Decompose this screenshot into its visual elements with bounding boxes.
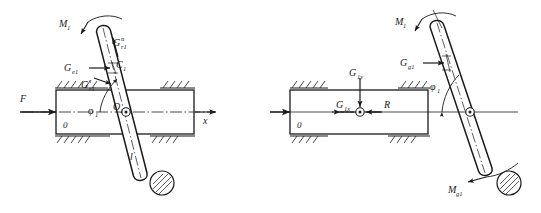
roller-circle (150, 171, 174, 195)
svg-text:C: C (116, 59, 123, 70)
svg-text:G: G (400, 57, 407, 68)
svg-text:e1: e1 (72, 68, 78, 75)
label-reaction: R (383, 99, 390, 110)
ground-hatch-bottom-left (290, 136, 328, 143)
svg-text:G: G (64, 62, 71, 73)
svg-text:τ: τ (89, 77, 92, 84)
svg-text:1: 1 (120, 107, 123, 114)
figure-root: F M 1 G n r1 G e1 G τ r1 C 1 O 1 φ (0, 0, 541, 213)
svg-text:G: G (349, 67, 356, 78)
ground-hatch-bottom-left (55, 136, 110, 143)
svg-text:r1: r1 (89, 85, 95, 92)
ground-hatch-top-right (160, 81, 195, 88)
rod-centerline (437, 23, 485, 173)
pivot-joint-rod (466, 108, 474, 116)
svg-text:G: G (113, 37, 120, 48)
svg-text:g1: g1 (408, 63, 415, 70)
svg-text:1: 1 (403, 22, 406, 29)
svg-text:φ: φ (88, 105, 94, 116)
left-diagram-svg: F M 1 G n r1 G e1 G τ r1 C 1 O 1 φ (0, 0, 270, 213)
svg-text:n: n (121, 35, 125, 42)
svg-text:G: G (81, 79, 88, 90)
pivot-joint-block (356, 108, 364, 116)
right-diagram: F M 1 G g1 G 1y G 1x R φ 1 M g1 0 (270, 0, 541, 213)
label-x-axis: x (202, 115, 208, 126)
svg-text:1: 1 (123, 65, 126, 72)
svg-text:1: 1 (95, 111, 98, 118)
svg-text:φ: φ (430, 81, 436, 92)
label-rod-length: l (130, 151, 133, 162)
svg-text:1: 1 (437, 87, 440, 94)
label-moment: M 1 (394, 16, 406, 29)
ground-hatch-bottom-right (150, 136, 195, 143)
label-angle: φ 1 (430, 81, 440, 94)
svg-text:G: G (336, 99, 343, 110)
ground-hatch-top-right (398, 81, 430, 88)
svg-text:1: 1 (67, 24, 70, 31)
label-applied-force: F (19, 93, 27, 104)
label-ground-zero: 0 (63, 120, 68, 130)
label-inertia-moment: M g1 (447, 184, 463, 197)
ground-hatch-top-left (290, 81, 328, 88)
svg-text:g1: g1 (456, 190, 463, 197)
svg-text:1x: 1x (344, 105, 350, 112)
label-ground-zero: 0 (297, 120, 302, 130)
label-tangential-force: G τ r1 (81, 77, 95, 92)
label-normal-force: G n r1 (113, 35, 127, 50)
ground-hatch-bottom-right (388, 136, 430, 143)
right-diagram-svg: F M 1 G g1 G 1y G 1x R φ 1 M g1 0 (270, 0, 541, 213)
roller-circle (497, 171, 521, 195)
svg-text:r1: r1 (121, 43, 127, 50)
label-moment: M 1 (58, 18, 70, 31)
label-vertical-component: G 1y (349, 67, 363, 80)
label-gravity-force: G g1 (400, 57, 415, 70)
svg-text:1y: 1y (357, 73, 363, 80)
label-centrifugal-force: G e1 (64, 62, 78, 75)
left-diagram: F M 1 G n r1 G e1 G τ r1 C 1 O 1 φ (0, 0, 270, 213)
